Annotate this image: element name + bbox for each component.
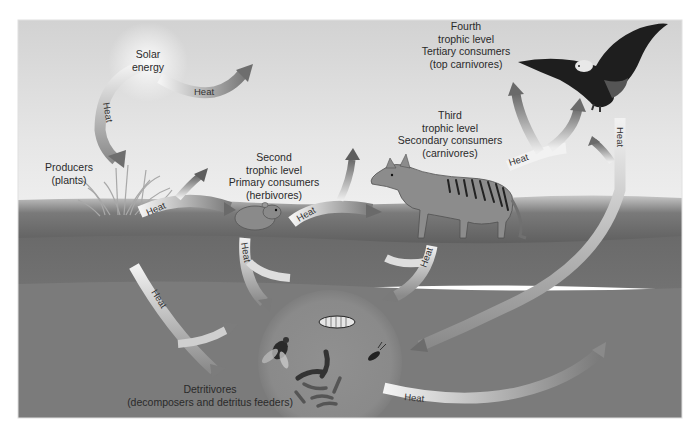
label-line: trophic level (220, 164, 328, 177)
label-line: Fourth (408, 20, 524, 33)
label-line: Producers (36, 161, 102, 174)
detritivores-area (258, 290, 402, 434)
label-line: (decomposers and detritus feeders) (120, 396, 300, 409)
label-second-trophic-level: Second trophic level Primary consumers (… (220, 151, 328, 201)
label-line: Primary consumers (220, 176, 328, 189)
label-line: (herbivores) (220, 189, 328, 202)
label-line: Second (220, 151, 328, 164)
label-line: energy (124, 61, 172, 74)
label-line: Tertiary consumers (408, 45, 524, 58)
label-line: (top carnivores) (408, 58, 524, 71)
label-detritivores: Detritivores (decomposers and detritus f… (120, 383, 300, 408)
label-line: trophic level (408, 33, 524, 46)
label-third-trophic-level: Third trophic level Secondary consumers … (390, 109, 510, 159)
heat-label: Heat (615, 127, 626, 147)
label-line: trophic level (390, 122, 510, 135)
label-line: (plants) (36, 174, 102, 187)
heat-label: Heat (194, 86, 214, 97)
label-line: Detritivores (120, 383, 300, 396)
label-fourth-trophic-level: Fourth trophic level Tertiary consumers … (408, 20, 524, 70)
label-line: (carnivores) (390, 147, 510, 160)
energy-flow-diagram: Heat Heat Heat Heat (0, 0, 696, 434)
label-line: Secondary consumers (390, 134, 510, 147)
label-producers: Producers (plants) (36, 161, 102, 186)
label-line: Solar (124, 48, 172, 61)
label-line: Third (390, 109, 510, 122)
detritivore-larva (319, 316, 355, 328)
heat-label: Heat (404, 391, 425, 404)
label-solar-energy: Solar energy (124, 48, 172, 73)
